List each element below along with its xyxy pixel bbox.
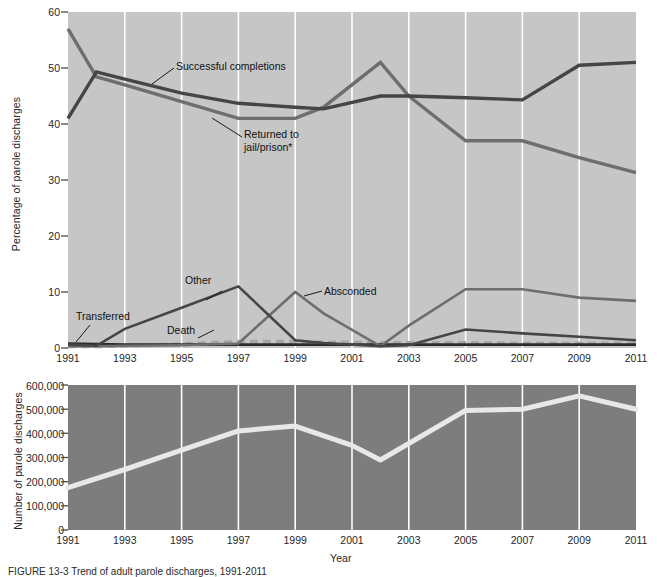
bottom-x-tick-2001: 2001 — [334, 534, 370, 546]
figure-caption: FIGURE 13-3 Trend of adult parole discha… — [8, 566, 267, 577]
bottom-x-tick-2003: 2003 — [391, 534, 427, 546]
bottom-chart: Number of parole discharges 600,000 500,… — [0, 0, 657, 577]
bottom-x-tick-1997: 1997 — [220, 534, 256, 546]
bottom-x-tick-2011: 2011 — [618, 534, 654, 546]
bottom-chart-x-axis-title: Year — [330, 552, 352, 564]
bottom-x-tick-1993: 1993 — [107, 534, 143, 546]
bottom-x-tick-2009: 2009 — [561, 534, 597, 546]
bottom-x-tick-1995: 1995 — [164, 534, 200, 546]
bottom-x-tick-2007: 2007 — [504, 534, 540, 546]
figure-container: Percentage of parole discharges 60 50 40… — [0, 0, 657, 577]
bottom-chart-plot — [0, 0, 657, 577]
bottom-x-tick-1999: 1999 — [277, 534, 313, 546]
bottom-x-tick-1991: 1991 — [50, 534, 86, 546]
bottom-x-tick-2005: 2005 — [448, 534, 484, 546]
